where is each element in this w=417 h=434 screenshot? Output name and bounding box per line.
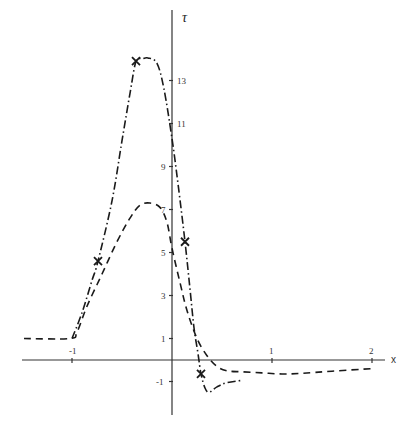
y-tick-label: -1	[156, 377, 164, 387]
markers-group	[94, 57, 205, 378]
y-tick-label: 9	[161, 162, 166, 172]
y-axis-label: τ	[182, 10, 188, 25]
y-tick-label: 7	[161, 205, 166, 215]
y-tick-label: 13	[177, 76, 187, 86]
y-tick-label: 3	[161, 291, 166, 301]
y-tick-label: 5	[161, 248, 166, 258]
chart: -112 -1135791113 x τ	[0, 0, 417, 434]
y-tick-label: 1	[161, 334, 166, 344]
x-tick-label: 2	[369, 346, 374, 356]
axes: -112 -1135791113 x τ	[22, 10, 396, 415]
series-group	[24, 58, 372, 393]
y-tick-label: 11	[177, 119, 186, 129]
x-tick-label: -1	[69, 346, 77, 356]
x-axis-label: x	[391, 354, 396, 365]
dash-dot-curve	[72, 58, 242, 393]
x-tick-label: 1	[269, 346, 274, 356]
y-ticks: -1135791113	[156, 76, 187, 387]
